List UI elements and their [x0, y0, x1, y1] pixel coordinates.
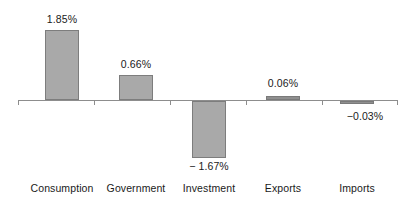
category-label-imports: Imports [317, 182, 397, 194]
bar-government[interactable] [119, 75, 153, 100]
axis-tick-start [18, 100, 19, 105]
plot-area: 1.85% 0.66% − 1.67% 0.06% −0.03% Consump… [0, 0, 416, 211]
bar-chart: 1.85% 0.66% − 1.67% 0.06% −0.03% Consump… [0, 0, 416, 211]
bar-consumption[interactable] [45, 30, 79, 100]
axis-tick-1 [94, 100, 95, 105]
category-label-exports: Exports [243, 182, 323, 194]
value-label-exports: 0.06% [243, 77, 323, 89]
axis-tick-2 [170, 100, 171, 105]
category-label-investment: Investment [169, 182, 249, 194]
category-label-government: Government [96, 182, 176, 194]
axis-tick-3 [246, 100, 247, 105]
category-label-consumption: Consumption [22, 182, 102, 194]
axis-tick-end [397, 100, 398, 105]
bar-imports[interactable] [340, 101, 374, 104]
value-label-imports: −0.03% [325, 110, 405, 122]
bar-exports[interactable] [266, 96, 300, 100]
value-label-government: 0.66% [96, 58, 176, 70]
bar-investment[interactable] [192, 101, 226, 158]
value-label-consumption: 1.85% [22, 13, 102, 25]
axis-tick-4 [322, 100, 323, 105]
value-label-investment: − 1.67% [169, 160, 249, 172]
